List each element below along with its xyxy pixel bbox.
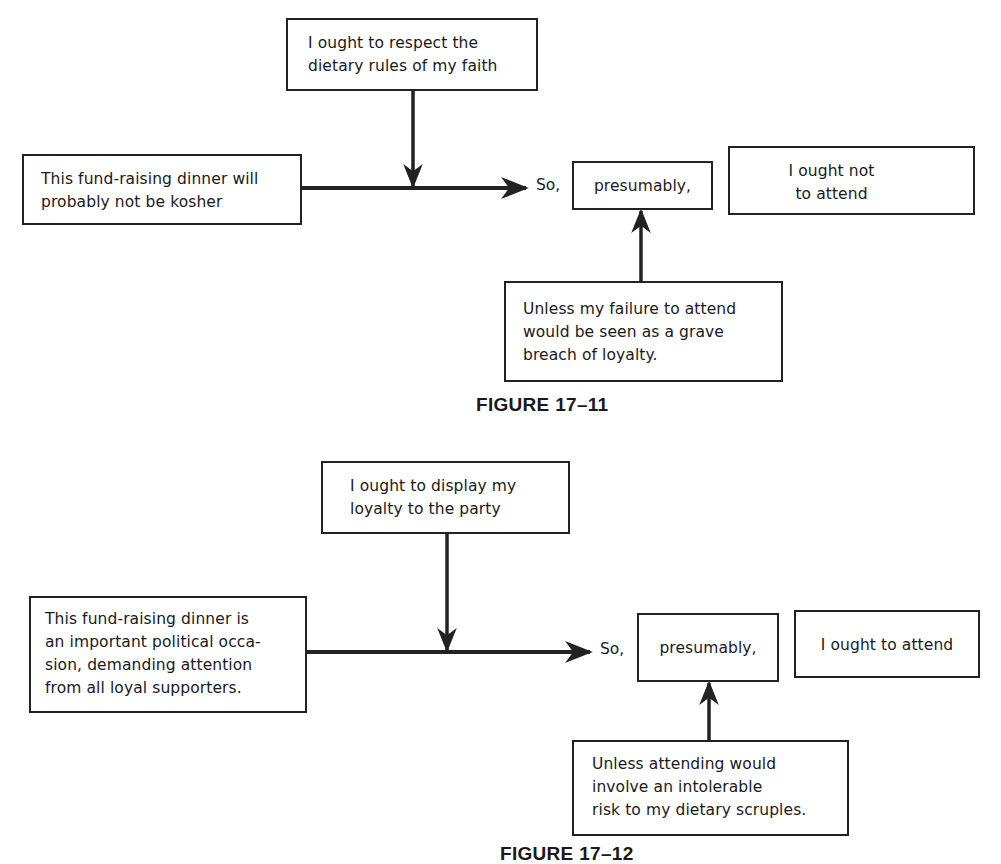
fig1-conclusion-box: I ought not to attend (728, 146, 975, 215)
fig2-warrant-text: I ought to display my loyalty to the par… (350, 475, 568, 521)
fig2-conclusion-text: I ought to attend (796, 634, 978, 657)
fig1-rebuttal-text: Unless my failure to attend would be see… (523, 298, 781, 367)
fig1-warrant-box: I ought to respect the dietary rules of … (286, 18, 538, 91)
fig2-qualifier-box: presumably, (637, 613, 779, 682)
fig1-warrant-text: I ought to respect the dietary rules of … (308, 32, 536, 78)
fig2-qualifier-text: presumably, (639, 637, 777, 660)
fig2-data-box: This fund-raising dinner is an important… (29, 596, 307, 713)
fig1-data-box: This fund-raising dinner will probably n… (22, 154, 302, 225)
fig1-caption: FIGURE 17–11 (476, 394, 608, 416)
fig2-warrant-box: I ought to display my loyalty to the par… (321, 461, 570, 534)
fig2-so-label: So, (600, 640, 624, 658)
fig1-rebuttal-box: Unless my failure to attend would be see… (504, 281, 783, 382)
fig2-rebuttal-text: Unless attending would involve an intole… (592, 753, 847, 822)
fig2-rebuttal-box: Unless attending would involve an intole… (572, 740, 849, 836)
fig1-conclusion-text: I ought not to attend (730, 160, 933, 206)
fig1-qualifier-box: presumably, (572, 161, 713, 210)
fig1-so-label: So, (536, 176, 560, 194)
fig1-qualifier-text: presumably, (574, 175, 711, 198)
fig2-conclusion-box: I ought to attend (794, 610, 980, 678)
fig2-data-text: This fund-raising dinner is an important… (45, 608, 305, 700)
fig1-data-text: This fund-raising dinner will probably n… (41, 168, 300, 214)
fig2-caption: FIGURE 17–12 (500, 843, 634, 864)
